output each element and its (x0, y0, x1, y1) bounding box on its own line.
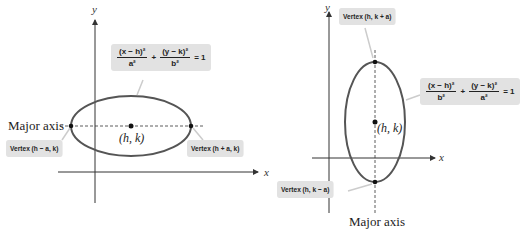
right-eq-term2-den: a² (481, 92, 488, 102)
right-eq-term1: (x − h)² b² (426, 81, 456, 102)
left-eq-term1: (x − h)² a² (117, 47, 147, 68)
left-eq-rhs: = 1 (194, 53, 205, 62)
right-eq-leader (406, 95, 420, 100)
left-vr-leader (193, 128, 203, 140)
left-vertex-right-point (189, 124, 194, 129)
right-eq-term1-num: (x − h)² (426, 81, 456, 92)
right-eq-term1-den: b² (437, 92, 445, 102)
right-vertex-top-point (373, 60, 378, 65)
left-y-axis-label: y (91, 3, 97, 15)
right-top-leader (365, 28, 373, 58)
right-vertex-bottom-label: Vertex (h, k − a) (277, 181, 334, 198)
right-eq-term2-num: (y − k)² (469, 81, 499, 92)
left-eq-term1-num: (x − h)² (117, 47, 147, 58)
left-major-axis-label: Major axis (8, 118, 64, 134)
left-eq-term2: (y − k)² b² (160, 47, 190, 68)
left-equation-callout: (x − h)² a² + (y − k)² b² = 1 (111, 44, 211, 71)
left-eq-leader (137, 80, 143, 95)
left-vertex-right-label: Vertex (h + a, k) (187, 140, 244, 157)
right-eq-rhs: = 1 (503, 87, 514, 96)
right-bottom-leader (348, 184, 372, 191)
right-x-axis-label: x (438, 151, 444, 163)
left-eq-term2-num: (y − k)² (160, 47, 190, 58)
left-center-label: (h, k) (119, 131, 144, 146)
right-eq-term2: (y − k)² a² (469, 81, 499, 102)
left-x-axis-label: x (263, 166, 269, 178)
right-vertex-top-label: Vertex (h, k + a) (339, 8, 396, 25)
ellipse-diagrams: x x y y (0, 0, 521, 234)
left-eq-term1-den: a² (129, 58, 136, 68)
right-y-axis-label: y (324, 1, 330, 13)
right-major-axis-label: Major axis (349, 214, 405, 230)
right-vertex-bottom-point (373, 180, 378, 185)
left-center-point (129, 124, 134, 129)
right-equation-callout: (x − h)² b² + (y − k)² a² = 1 (420, 78, 520, 105)
right-center-label: (h, k) (377, 121, 402, 136)
left-eq-term2-den: b² (171, 58, 179, 68)
left-vertex-left-label: Vertex (h − a, k) (6, 140, 63, 157)
left-eq-plus: + (151, 53, 156, 62)
right-eq-plus: + (460, 87, 465, 96)
